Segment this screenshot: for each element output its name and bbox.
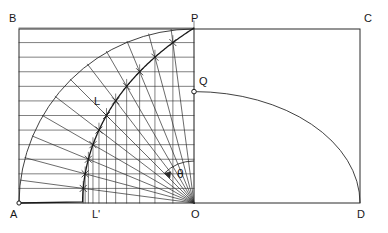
label-D: D <box>357 209 365 220</box>
label-A: A <box>10 209 17 220</box>
bounding-rectangle <box>19 29 360 203</box>
diagram-canvas <box>0 0 388 233</box>
label-L-prime: L' <box>92 209 100 220</box>
label-theta: θ <box>177 169 184 180</box>
arc-QD <box>194 92 360 203</box>
label-B: B <box>9 13 16 24</box>
label-P: P <box>191 13 198 24</box>
label-L: L <box>94 96 100 107</box>
label-Q: Q <box>199 76 208 87</box>
quadratrix-figure: B P C Q L θ A L' O D <box>0 0 388 233</box>
label-O: O <box>191 209 200 220</box>
label-C: C <box>364 13 372 24</box>
